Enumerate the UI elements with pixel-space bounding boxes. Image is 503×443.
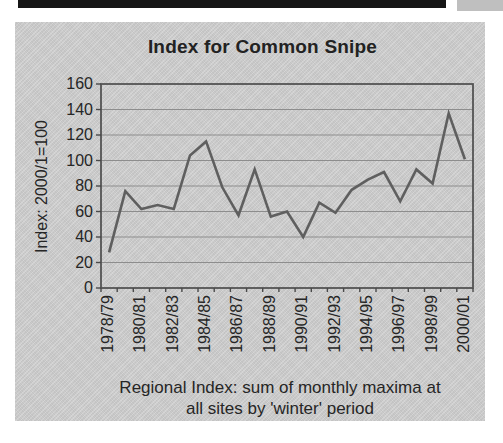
x-tick-label: 1990/91 — [293, 295, 311, 353]
x-axis-caption-line1: Regional Index: sum of monthly maxima at — [75, 377, 485, 398]
y-tick-label: 60 — [49, 203, 93, 221]
y-tick-label: 20 — [49, 254, 93, 272]
x-axis-caption: Regional Index: sum of monthly maxima at… — [75, 377, 485, 419]
plot-area — [101, 84, 473, 288]
y-tick-label: 0 — [49, 279, 93, 297]
scan-edge-artifact-right — [457, 0, 503, 11]
x-tick-label: 1988/89 — [261, 295, 279, 353]
x-tick-label: 1984/85 — [196, 295, 214, 353]
x-tick-label: 1998/99 — [423, 295, 441, 353]
x-tick-label: 1996/97 — [390, 295, 408, 353]
x-tick-label: 1992/93 — [326, 295, 344, 353]
y-tick-label: 120 — [49, 126, 93, 144]
y-tick-label: 80 — [49, 177, 93, 195]
y-tick-label: 140 — [49, 101, 93, 119]
y-tick-label: 40 — [49, 228, 93, 246]
y-tick-label: 160 — [49, 75, 93, 93]
x-tick-label: 1978/79 — [99, 295, 117, 353]
chart-title: Index for Common Snipe — [40, 36, 485, 58]
x-tick-label: 1980/81 — [131, 295, 149, 353]
scan-edge-artifact-left — [18, 0, 446, 8]
chart-scan-page: Index for Common Snipe Index: 2000/1=100… — [0, 0, 503, 443]
y-tick-label: 100 — [49, 152, 93, 170]
x-tick-label: 1994/95 — [358, 295, 376, 353]
chart-area: Index for Common Snipe Index: 2000/1=100… — [15, 22, 485, 421]
x-tick-label: 1986/87 — [228, 295, 246, 353]
x-tick-label: 2000/01 — [455, 295, 473, 353]
x-axis-caption-line2: all sites by 'winter' period — [75, 398, 485, 419]
series-line — [109, 113, 465, 252]
x-tick-label: 1982/83 — [164, 295, 182, 353]
